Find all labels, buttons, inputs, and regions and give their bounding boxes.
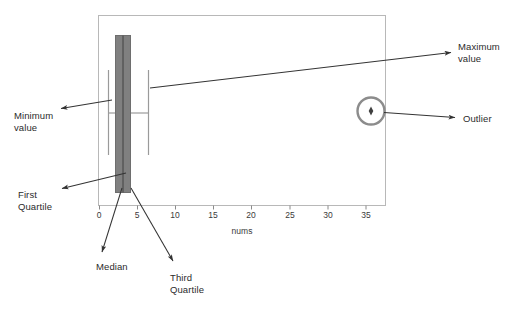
- x-tick-label-30: 30: [323, 210, 332, 220]
- annotation-maximum-value: Maximum value: [458, 41, 500, 64]
- x-tick-label-25: 25: [285, 210, 294, 220]
- plot-frame: [99, 16, 386, 206]
- annotation-median: Median: [96, 261, 128, 273]
- x-tick-label-0: 0: [97, 210, 102, 220]
- annotation-outlier: Outlier: [463, 113, 492, 125]
- annotation-third-quartile: Third Quartile: [170, 272, 204, 295]
- x-axis-title: nums: [232, 226, 253, 236]
- x-tick-label-15: 15: [208, 210, 217, 220]
- x-tick-label-5: 5: [135, 210, 140, 220]
- x-axis-ticks: [100, 206, 367, 210]
- leader-outlier: [384, 113, 455, 118]
- leader-median: [102, 188, 122, 252]
- leader-third-quartile: [131, 188, 173, 261]
- leader-maximum-value: [150, 53, 451, 89]
- leader-minimum-value: [61, 100, 112, 109]
- x-tick-label-10: 10: [170, 210, 179, 220]
- annotation-first-quartile: First Quartile: [18, 189, 52, 212]
- annotation-minimum-value: Minimum value: [14, 110, 53, 133]
- outlier-marker-icon: [369, 107, 374, 116]
- x-tick-label-20: 20: [246, 210, 255, 220]
- boxplot-figure: [0, 0, 518, 313]
- figure-canvas: 0 5 10 15 20 25 30 35 nums Minimum value…: [0, 0, 518, 313]
- x-tick-label-35: 35: [361, 210, 370, 220]
